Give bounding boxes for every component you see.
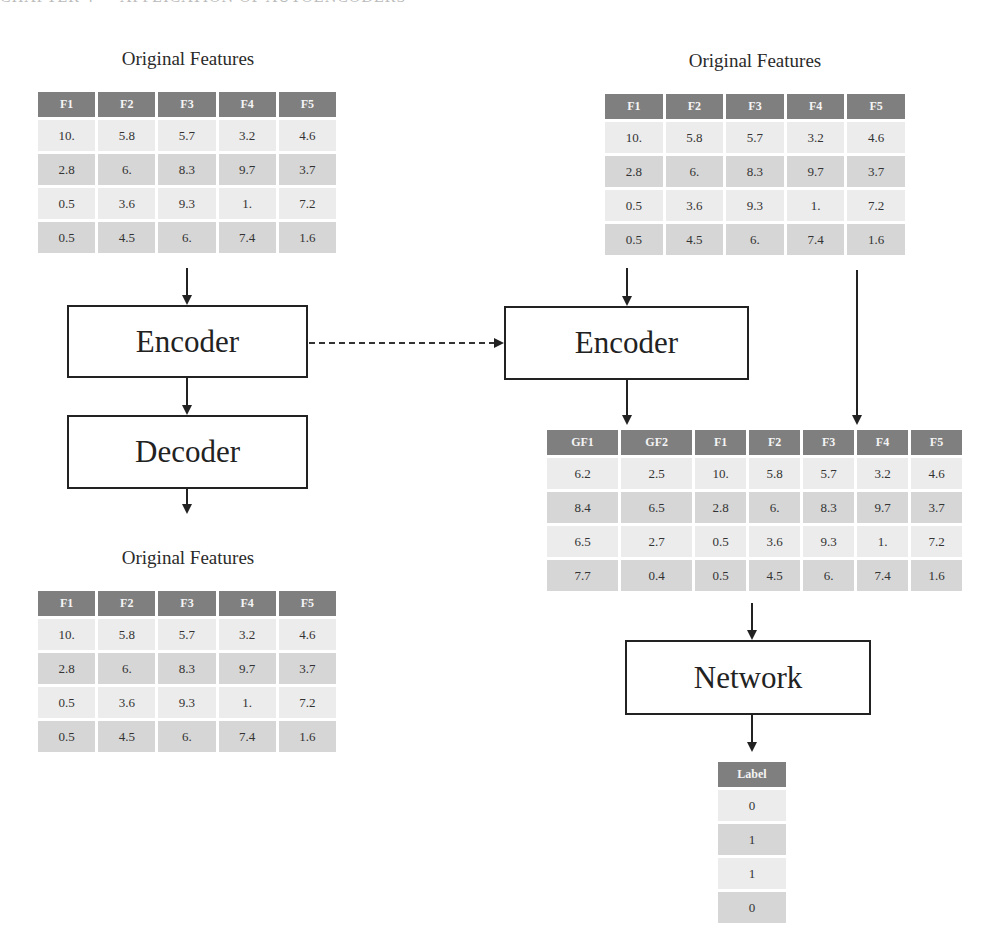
table-row: 10. 5.8 5.7 3.2 4.6: [605, 122, 905, 153]
table-cell: 5.7: [158, 120, 215, 151]
arrow-down-icon: [852, 415, 862, 425]
table-cell: 0.5: [38, 222, 95, 253]
table-cell: 1: [718, 824, 786, 855]
arrow-line: [186, 489, 188, 505]
table-cell: 6.: [749, 492, 800, 523]
column-header: F1: [38, 591, 95, 616]
label-table: Label 0 1 1 0: [715, 759, 789, 926]
table-cell: 0: [718, 790, 786, 821]
table-header-row: F1 F2 F3 F4 F5: [605, 94, 905, 119]
column-header: F3: [158, 591, 215, 616]
decoder-label: Decoder: [135, 434, 240, 470]
arrow-down-icon: [747, 742, 757, 752]
network-box: Network: [625, 640, 871, 715]
table-row: 10. 5.8 5.7 3.2 4.6: [38, 120, 336, 151]
left-output-table: F1 F2 F3 F4 F5 10. 5.8 5.7 3.2 4.6 2.8 6…: [35, 588, 339, 755]
arrow-right-icon: [494, 338, 504, 348]
table-cell: 4.5: [749, 560, 800, 591]
table-cell: 2.7: [621, 526, 692, 557]
table-cell: 7.4: [219, 721, 276, 752]
table-cell: 7.4: [787, 224, 845, 255]
arrow-down-icon: [182, 504, 192, 514]
table-cell: 3.2: [787, 122, 845, 153]
table-cell: 6.: [803, 560, 854, 591]
dashed-arrow-line: [309, 342, 495, 344]
table-cell: 2.8: [695, 492, 746, 523]
table-cell: 1: [718, 858, 786, 889]
arrow-line: [856, 270, 858, 416]
table-cell: 0.4: [621, 560, 692, 591]
table-cell: 5.7: [803, 458, 854, 489]
decoder-box: Decoder: [67, 415, 308, 489]
table-cell: 5.8: [98, 619, 155, 650]
table-header-row: F1 F2 F3 F4 F5: [38, 92, 336, 117]
table-cell: 9.3: [158, 188, 215, 219]
table-cell: 6.5: [547, 526, 618, 557]
table-cell: 0.5: [605, 190, 663, 221]
table-cell: 5.8: [666, 122, 724, 153]
table-cell: 0.5: [38, 721, 95, 752]
table-header-row: GF1 GF2 F1 F2 F3 F4 F5: [547, 430, 962, 455]
table-cell: 4.6: [911, 458, 962, 489]
table-cell: 9.7: [787, 156, 845, 187]
table-row: 0.5 3.6 9.3 1. 7.2: [605, 190, 905, 221]
table-cell: 0.5: [695, 560, 746, 591]
column-header: F3: [158, 92, 215, 117]
table-cell: 1.6: [279, 721, 336, 752]
table-row: 6.5 2.7 0.5 3.6 9.3 1. 7.2: [547, 526, 962, 557]
table-cell: 7.2: [911, 526, 962, 557]
table-cell: 3.6: [749, 526, 800, 557]
table-cell: 4.5: [666, 224, 724, 255]
column-header: F4: [787, 94, 845, 119]
table-cell: 1.: [857, 526, 908, 557]
table-cell: 3.2: [857, 458, 908, 489]
right-input-caption: Original Features: [604, 50, 906, 72]
table-cell: 7.7: [547, 560, 618, 591]
column-header: F3: [803, 430, 854, 455]
column-header: F2: [666, 94, 724, 119]
table-cell: 9.7: [857, 492, 908, 523]
table-cell: 0.5: [695, 526, 746, 557]
table-cell: 3.6: [98, 687, 155, 718]
table-row: 1: [718, 858, 786, 889]
table-row: 0.5 4.5 6. 7.4 1.6: [38, 222, 336, 253]
table-header-row: Label: [718, 762, 786, 787]
table-row: 6.2 2.5 10. 5.8 5.7 3.2 4.6: [547, 458, 962, 489]
column-header: Label: [718, 762, 786, 787]
column-header: F1: [605, 94, 663, 119]
arrow-down-icon: [622, 296, 632, 306]
table-row: 0.5 4.5 6. 7.4 1.6: [38, 721, 336, 752]
right-encoder-box: Encoder: [504, 306, 749, 380]
column-header: GF1: [547, 430, 618, 455]
table-cell: 10.: [38, 619, 95, 650]
table-cell: 6.: [666, 156, 724, 187]
table-cell: 1.6: [911, 560, 962, 591]
table-cell: 3.6: [98, 188, 155, 219]
table-cell: 2.8: [38, 154, 95, 185]
table-cell: 1.: [787, 190, 845, 221]
right-input-table: F1 F2 F3 F4 F5 10. 5.8 5.7 3.2 4.6 2.8 6…: [602, 91, 908, 258]
column-header: F4: [219, 591, 276, 616]
table-cell: 2.5: [621, 458, 692, 489]
column-header: F4: [219, 92, 276, 117]
arrow-line: [626, 380, 628, 416]
table-cell: 7.2: [279, 188, 336, 219]
table-cell: 9.3: [726, 190, 784, 221]
table-cell: 3.7: [279, 154, 336, 185]
table-cell: 9.3: [803, 526, 854, 557]
table-cell: 8.4: [547, 492, 618, 523]
table-cell: 5.7: [726, 122, 784, 153]
table-row: 0.5 3.6 9.3 1. 7.2: [38, 687, 336, 718]
table-cell: 4.6: [279, 120, 336, 151]
table-cell: 4.5: [98, 721, 155, 752]
table-cell: 6.: [158, 222, 215, 253]
table-cell: 1.: [219, 687, 276, 718]
table-cell: 3.2: [219, 619, 276, 650]
table-cell: 2.8: [605, 156, 663, 187]
table-row: 8.4 6.5 2.8 6. 8.3 9.7 3.7: [547, 492, 962, 523]
table-cell: 5.8: [749, 458, 800, 489]
table-cell: 6.: [158, 721, 215, 752]
column-header: F5: [279, 92, 336, 117]
table-cell: 4.6: [847, 122, 905, 153]
arrow-line: [186, 378, 188, 406]
